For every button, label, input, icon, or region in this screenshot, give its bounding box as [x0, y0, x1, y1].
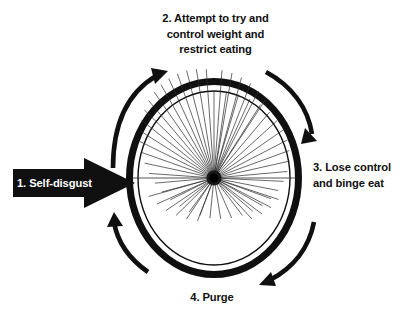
step-3-label: 3. Lose control and binge eat — [313, 160, 409, 191]
step-1-label: 1. Self-disgust — [17, 176, 121, 190]
arc-arrow-bottom-right — [270, 222, 314, 280]
wheel-hub-core — [210, 174, 219, 183]
arc-arrow-bottom-right-head — [259, 272, 276, 286]
arc-arrow-top-right-head — [301, 128, 317, 144]
arc-arrow-bottom-left-head — [107, 212, 123, 227]
diagram-canvas: 2. Attempt to try and control weight and… — [0, 0, 410, 318]
wheel-spokes — [140, 69, 289, 221]
step-4-label: 4. Purge — [152, 290, 272, 306]
arc-arrow-top-left-head — [151, 68, 168, 84]
step-2-label: 2. Attempt to try and control weight and… — [128, 11, 303, 58]
wheel-group — [130, 69, 299, 274]
